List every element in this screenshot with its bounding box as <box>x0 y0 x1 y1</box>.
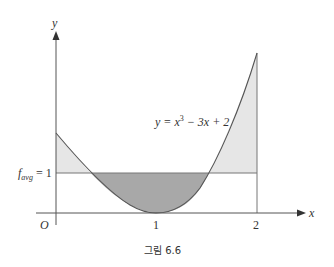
x-tick-1: 1 <box>153 218 159 232</box>
y-axis-arrow-icon <box>53 31 60 40</box>
x-tick-2: 2 <box>253 218 259 232</box>
origin-label: O <box>40 218 49 232</box>
figure-caption: 그림 6.6 <box>144 245 181 256</box>
figure-canvas: y x O 1 2 favg = 1 y = x3 − 3x + 2 그림 6.… <box>0 0 334 267</box>
favg-label: favg = 1 <box>18 166 52 182</box>
function-label: y = x3 − 3x + 2 <box>154 114 229 129</box>
x-axis-arrow-icon <box>297 210 306 217</box>
above-average-region-right <box>209 53 257 173</box>
below-average-region <box>91 173 209 213</box>
y-axis-label: y <box>51 16 58 30</box>
x-axis-label: x <box>308 206 315 220</box>
